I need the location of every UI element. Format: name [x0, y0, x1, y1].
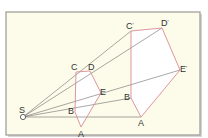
homothety-diagram: S C D E B A C' D' E' B A — [0, 0, 208, 138]
center-point-s — [20, 114, 25, 119]
label-b-prime: B — [124, 92, 130, 102]
label-c: C — [71, 62, 78, 72]
label-s: S — [19, 105, 25, 115]
label-a-prime: A — [138, 118, 144, 128]
label-b: B — [68, 106, 74, 116]
label-e: E — [100, 87, 106, 97]
label-a: A — [78, 129, 84, 138]
label-d: D — [88, 62, 95, 72]
